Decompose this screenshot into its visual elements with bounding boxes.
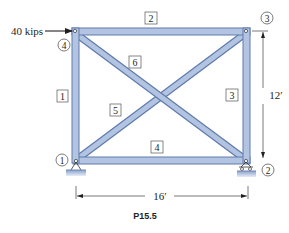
width-dimension: 16′ bbox=[76, 186, 248, 202]
figure-caption: P15.5 bbox=[133, 211, 157, 221]
load-label: 40 kips bbox=[11, 25, 43, 37]
load-arrow: 40 kips bbox=[11, 25, 72, 37]
svg-text:4: 4 bbox=[62, 41, 67, 51]
height-dimension: 12′ bbox=[252, 31, 283, 158]
member-2 bbox=[72, 28, 250, 35]
member-label-5: 5 bbox=[110, 104, 121, 116]
member-4 bbox=[73, 157, 250, 164]
svg-text:3: 3 bbox=[265, 14, 270, 24]
joint-label-1: 1 bbox=[56, 154, 68, 166]
joint-label-4: 4 bbox=[58, 39, 70, 51]
svg-text:5: 5 bbox=[113, 105, 118, 116]
joint-label-3: 3 bbox=[261, 12, 273, 24]
member-1 bbox=[72, 28, 79, 163]
joint-label-2: 2 bbox=[262, 164, 274, 176]
joint-3-pin-icon bbox=[244, 29, 247, 32]
svg-text:1: 1 bbox=[60, 156, 65, 166]
member-label-4: 4 bbox=[151, 141, 163, 153]
height-dimension-label: 12′ bbox=[269, 89, 282, 101]
member-label-3: 3 bbox=[226, 89, 238, 101]
member-label-6: 6 bbox=[129, 56, 141, 68]
member-3 bbox=[243, 28, 250, 163]
member-label-1: 1 bbox=[57, 90, 68, 102]
truss-diagram: 40 kips 2 6 1 5 3 4 3 4 1 2 bbox=[0, 0, 289, 233]
width-dimension-label: 16′ bbox=[153, 190, 166, 202]
svg-text:4: 4 bbox=[155, 142, 160, 153]
svg-text:2: 2 bbox=[149, 13, 154, 24]
svg-text:6: 6 bbox=[133, 57, 138, 68]
joint-4-pin-icon bbox=[73, 29, 76, 32]
svg-text:2: 2 bbox=[266, 166, 271, 176]
svg-text:1: 1 bbox=[60, 91, 65, 102]
member-label-2: 2 bbox=[145, 12, 157, 24]
svg-text:3: 3 bbox=[230, 90, 235, 101]
